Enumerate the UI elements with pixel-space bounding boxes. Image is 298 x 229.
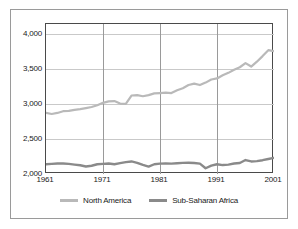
plot-wrapper xyxy=(45,23,273,173)
y-axis-tick-labels: 2,0002,5003,0003,5004,000 xyxy=(11,23,42,173)
y-tick-label: 3,000 xyxy=(23,99,42,108)
legend-item[interactable]: North America xyxy=(60,196,131,205)
y-tick-label: 3,500 xyxy=(23,64,42,73)
legend-swatch-icon xyxy=(60,199,78,202)
x-tick-label: 1971 xyxy=(94,175,111,184)
x-axis-tick-labels: 19611971198119912001 xyxy=(45,175,273,189)
plot-area xyxy=(45,23,273,173)
chart-legend: North AmericaSub-Saharan Africa xyxy=(11,196,287,205)
x-tick-label: 1991 xyxy=(208,175,225,184)
y-tick-label: 4,000 xyxy=(23,29,42,38)
x-tick-label: 1961 xyxy=(37,175,54,184)
legend-item[interactable]: Sub-Saharan Africa xyxy=(149,196,238,205)
y-tick-label: 2,500 xyxy=(23,134,42,143)
legend-swatch-icon xyxy=(149,199,167,202)
x-tick-label: 1981 xyxy=(151,175,168,184)
x-tick-label: 2001 xyxy=(265,175,282,184)
legend-label: North America xyxy=(83,196,131,205)
legend-label: Sub-Saharan Africa xyxy=(172,196,238,205)
chart-figure: 2,0002,5003,0003,5004,000 19611971198119… xyxy=(10,9,288,219)
chart-canvas xyxy=(46,24,274,174)
